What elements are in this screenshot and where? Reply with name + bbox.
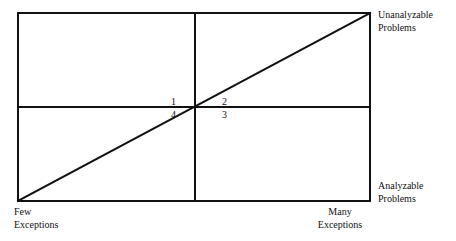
axis-label-few-line1: Few [14,205,58,218]
axis-label-unanalyzable-problems: Unanalyzable Problems [378,8,433,34]
axis-label-many-line2: Exceptions [293,218,387,231]
quadrant-number-1: 1 [171,97,176,107]
axis-label-unanalyzable-line2: Problems [378,21,433,34]
axis-label-many-exceptions: Many Exceptions [293,205,387,231]
quadrant-number-2: 2 [222,97,227,107]
axis-label-unanalyzable-line1: Unanalyzable [378,8,433,21]
axis-label-few-exceptions: Few Exceptions [14,205,58,231]
quadrant-number-4: 4 [171,110,176,120]
axis-label-analyzable-line1: Analyzable [378,179,424,192]
axis-label-analyzable-problems: Analyzable Problems [378,179,424,205]
quadrant-number-3: 3 [222,110,227,120]
axis-label-analyzable-line2: Problems [378,192,424,205]
figure-root: 1 2 3 4 Unanalyzable Problems Analyzable… [0,0,456,241]
horizontal-divider [17,106,371,108]
axis-label-many-line1: Many [293,205,387,218]
axis-label-few-line2: Exceptions [14,218,58,231]
